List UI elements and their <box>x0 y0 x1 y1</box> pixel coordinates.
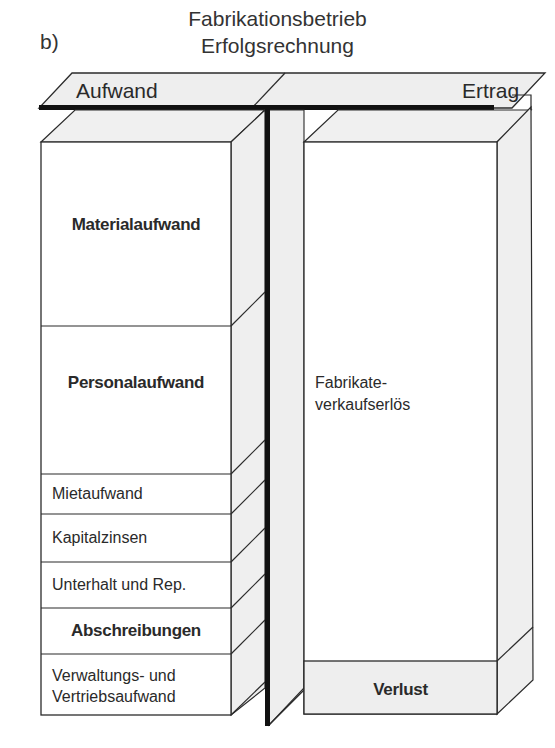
ertrag-box-front <box>304 142 497 714</box>
materialaufwand-label: Materialaufwand <box>41 215 231 234</box>
ertrag-box-side <box>497 107 533 714</box>
aufwand-box-side <box>231 110 265 715</box>
ertrag-header: Ertrag <box>462 79 519 103</box>
personalaufwand-label: Personalaufwand <box>41 373 231 392</box>
unterhalt-label: Unterhalt und Rep. <box>52 575 186 594</box>
center-black-bar <box>265 106 270 726</box>
mietaufwand-label: Mietaufwand <box>52 484 143 503</box>
center-panel <box>269 110 304 725</box>
verwaltungs-label-line1: Verwaltungs- und <box>52 666 176 685</box>
verkaufserloes-label-line1: Fabrikate- <box>315 373 387 392</box>
verwaltungs-label-line2: Vertriebsaufwand <box>52 687 176 706</box>
ertrag-box-top <box>304 110 531 142</box>
verlust-label: Verlust <box>304 680 497 699</box>
aufwand-box-top <box>41 110 265 142</box>
abschreibungen-label: Abschreibungen <box>41 621 231 640</box>
verkaufserloes-label-line2: verkaufserlös <box>315 395 410 414</box>
aufwand-header: Aufwand <box>76 79 158 103</box>
kapitalzinsen-label: Kapitalzinsen <box>52 528 147 547</box>
